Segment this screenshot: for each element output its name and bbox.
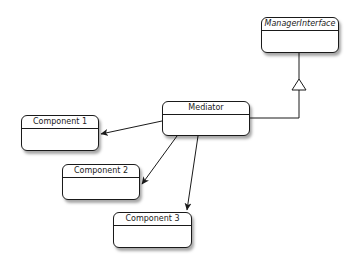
class-component-3[interactable]: Component 3 (113, 212, 192, 248)
association-arrow-component3 (187, 136, 198, 210)
class-name: Component 2 (63, 165, 139, 178)
realization-connector (249, 52, 306, 118)
diagram-canvas: ManagerInterface Mediator Component 1 Co… (0, 0, 359, 264)
association-arrow-component1 (101, 121, 162, 134)
class-component-2[interactable]: Component 2 (62, 164, 140, 200)
class-name: Component 3 (114, 213, 191, 226)
class-manager-interface[interactable]: ManagerInterface (261, 17, 339, 53)
class-name: Component 1 (22, 116, 98, 129)
class-mediator[interactable]: Mediator (162, 101, 250, 136)
class-component-1[interactable]: Component 1 (21, 115, 99, 151)
association-arrow-component2 (142, 136, 177, 184)
class-name: Mediator (163, 102, 249, 115)
class-name: ManagerInterface (262, 18, 338, 31)
inheritance-triangle-icon (292, 79, 306, 90)
